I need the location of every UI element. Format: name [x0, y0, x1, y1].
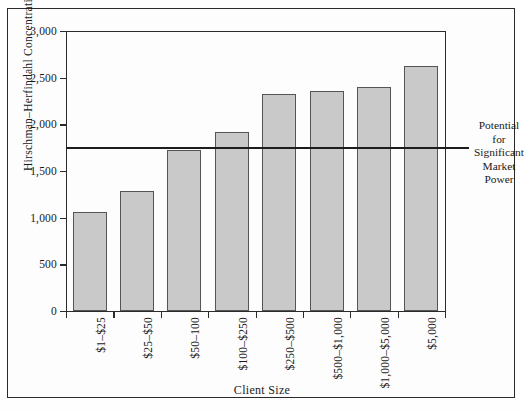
- plot-right-border: [445, 31, 446, 312]
- threshold-annotation: PotentialforSignificantMarketPower: [471, 119, 527, 187]
- x-tick-mark: [398, 311, 399, 318]
- y-tick-mark: [60, 171, 66, 172]
- x-tick-mark: [161, 311, 162, 318]
- y-tick-label: 1,000: [30, 212, 57, 224]
- x-tick-mark: [350, 311, 351, 318]
- y-tick-label: 500: [39, 258, 57, 270]
- plot-top-border: [66, 31, 446, 32]
- y-tick-label: 2,500: [30, 72, 57, 84]
- y-tick-mark: [60, 218, 66, 219]
- threshold-line: [66, 147, 469, 149]
- x-tick-label: $1–$25: [95, 317, 107, 353]
- plot-area: 05001,0001,5002,0002,5003,000: [66, 31, 445, 311]
- y-axis-line: [66, 31, 67, 312]
- x-tick-label: $1,000–$5,000: [379, 317, 391, 389]
- y-tick-label: 0: [51, 305, 57, 317]
- bar: [262, 94, 296, 311]
- y-tick-mark: [60, 78, 66, 79]
- annotation-line: for: [471, 133, 527, 147]
- x-tick-label: $5,000: [426, 317, 438, 350]
- x-tick-mark: [208, 311, 209, 318]
- x-tick-mark: [303, 311, 304, 318]
- x-tick-label: $250–$500: [284, 317, 296, 371]
- x-tick-label: $500–$1,000: [332, 317, 344, 380]
- y-tick-label: 3,000: [30, 25, 57, 37]
- y-tick-label: 2,000: [30, 118, 57, 130]
- x-axis-title: Client Size: [8, 383, 516, 398]
- annotation-line: Significant: [471, 146, 527, 160]
- x-tick-mark: [256, 311, 257, 318]
- y-tick-mark: [60, 264, 66, 265]
- bar: [357, 87, 391, 311]
- bar: [310, 91, 344, 311]
- x-tick-mark: [445, 311, 446, 318]
- annotation-line: Potential: [471, 119, 527, 133]
- annotation-line: Power: [471, 173, 527, 187]
- bar: [167, 150, 201, 311]
- y-tick-mark: [60, 31, 66, 32]
- bar: [73, 212, 107, 311]
- bar: [120, 191, 154, 311]
- bar: [215, 132, 249, 311]
- x-tick-label: $50–100: [189, 317, 201, 359]
- x-tick-mark: [113, 311, 114, 318]
- x-tick-label: $25–$50: [142, 317, 154, 359]
- bar: [404, 66, 438, 311]
- y-tick-mark: [60, 124, 66, 125]
- x-tick-mark: [66, 311, 67, 318]
- y-tick-label: 1,500: [30, 165, 57, 177]
- annotation-line: Market: [471, 160, 527, 174]
- figure-frame: Hirschman–Herfindahl Concentration 05001…: [7, 8, 515, 398]
- x-tick-label: $100–$250: [237, 317, 249, 371]
